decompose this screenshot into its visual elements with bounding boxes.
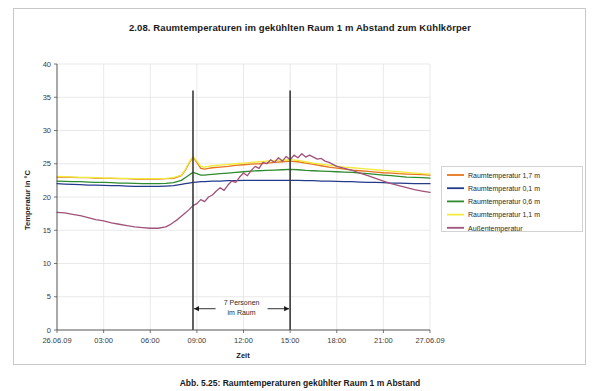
x-axis-title: Zeit: [236, 351, 250, 360]
y-tick-label: 30: [43, 126, 51, 135]
x-tick-label: 06:00: [141, 336, 160, 345]
x-tick-label: 18:00: [327, 336, 346, 345]
legend-label: Außentemperatur: [468, 225, 523, 233]
x-tick-label: 09:00: [187, 336, 206, 345]
legend-label: Raumtemperatur 0,1 m: [468, 185, 540, 193]
marker-lines-group: [193, 91, 290, 330]
y-tick-label: 5: [47, 292, 51, 301]
figure-caption: Abb. 5.25: Raumtemperaturen gekühlter Ra…: [0, 375, 600, 391]
x-tick-label: 03:00: [94, 336, 113, 345]
x-tick-label: 27.06.09: [415, 336, 444, 345]
gridlines: [57, 64, 430, 330]
y-tick-label: 10: [43, 259, 51, 268]
annotations-group: 7 Personenim Raum: [194, 299, 289, 317]
y-axis-ticks: 0510152025303540: [43, 60, 57, 335]
x-axis-ticks: 26.06.0903:0006:0009:0012:0015:0018:0021…: [42, 330, 444, 345]
y-axis-title: Temperatur in °C: [23, 169, 32, 230]
x-tick-label: 26.06.09: [42, 336, 71, 345]
y-tick-label: 35: [43, 93, 51, 102]
y-tick-label: 0: [47, 326, 51, 335]
annotation-text-line1: 7 Personen: [224, 299, 260, 306]
x-tick-label: 21:00: [374, 336, 393, 345]
x-tick-label: 12:00: [234, 336, 253, 345]
annotation-arrowhead-right: [284, 306, 289, 311]
y-tick-label: 20: [43, 193, 51, 202]
y-tick-label: 15: [43, 226, 51, 235]
annotation-text-line2: im Raum: [228, 309, 256, 316]
y-tick-label: 25: [43, 159, 51, 168]
x-tick-label: 15:00: [281, 336, 300, 345]
figure-container: 2.08. Raumtemperaturen im gekühlten Raum…: [0, 0, 600, 391]
legend-items-group: Raumtemperatur 1,7 mRaumtemperatur 0,1 m…: [447, 172, 540, 233]
legend-label: Raumtemperatur 1,7 m: [468, 172, 540, 180]
legend-label: Raumtemperatur 0,6 m: [468, 198, 540, 206]
chart-plot: 0510152025303540 26.06.0903:0006:0009:00…: [0, 0, 600, 391]
y-tick-label: 40: [43, 60, 51, 69]
legend-label: Raumtemperatur 1,1 m: [468, 211, 540, 219]
